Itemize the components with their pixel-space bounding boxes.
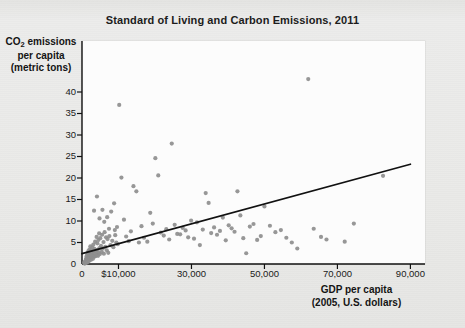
x-tick-label: 70,000 <box>307 268 367 279</box>
plot-area <box>82 41 425 264</box>
y-tick-label: 25 <box>52 150 76 161</box>
x-tick-label: 30,000 <box>161 268 221 279</box>
y-axis-title-text: CO2 emissionsper capita(metric tons) <box>6 36 77 73</box>
y-tick-label: 30 <box>52 129 76 140</box>
x-axis-title: GDP per capita(2005, U.S. dollars) <box>288 284 425 309</box>
y-tick-label: 5 <box>52 236 76 247</box>
y-tick-label: 15 <box>52 193 76 204</box>
y-tick-label: 0 <box>52 258 76 269</box>
figure-root: Standard of Living and Carbon Emissions,… <box>0 0 465 328</box>
y-tick-label: 35 <box>52 107 76 118</box>
y-tick-label: 20 <box>52 172 76 183</box>
y-tick-label: 40 <box>52 86 76 97</box>
x-tick-label: $10,000 <box>88 268 148 279</box>
y-tick-label: 10 <box>52 215 76 226</box>
x-tick-label: 50,000 <box>234 268 294 279</box>
y-axis-title: CO2 emissionsper capita(metric tons) <box>4 36 78 75</box>
x-tick-label: 90,000 <box>380 268 440 279</box>
chart-title: Standard of Living and Carbon Emissions,… <box>0 14 465 26</box>
